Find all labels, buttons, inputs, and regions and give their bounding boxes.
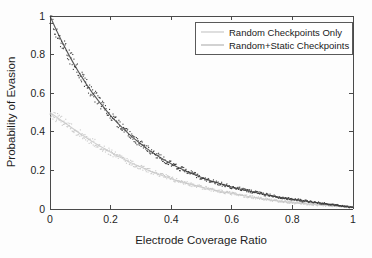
data-point — [349, 207, 350, 208]
data-point — [189, 172, 190, 173]
data-point — [235, 194, 236, 195]
x-tick-labels: 00.20.40.60.81 — [47, 213, 356, 225]
data-point — [166, 174, 167, 175]
data-point — [110, 116, 111, 117]
data-point — [86, 136, 87, 137]
data-point — [176, 180, 177, 181]
data-point — [137, 168, 138, 169]
data-point — [142, 142, 143, 143]
data-point — [216, 182, 217, 183]
data-point — [256, 197, 257, 198]
data-point — [286, 199, 287, 200]
data-point — [169, 176, 170, 177]
data-point — [108, 115, 109, 116]
data-point — [108, 154, 109, 155]
data-point — [286, 198, 287, 199]
data-point — [140, 168, 141, 169]
data-point — [79, 77, 80, 78]
data-point — [195, 175, 196, 176]
data-point — [168, 164, 169, 165]
data-point — [166, 163, 167, 164]
data-point — [56, 118, 57, 119]
data-point — [124, 159, 125, 160]
data-point — [121, 128, 122, 129]
data-point — [240, 195, 241, 196]
x-tick-label: 0 — [47, 213, 53, 225]
data-point — [111, 151, 112, 152]
data-point — [197, 185, 198, 186]
data-point — [160, 157, 161, 158]
data-point — [261, 197, 262, 198]
data-point — [52, 114, 53, 115]
data-point — [58, 116, 59, 117]
data-point — [232, 187, 233, 188]
data-point — [137, 138, 138, 139]
data-point — [54, 117, 55, 118]
data-point — [282, 198, 283, 199]
data-point — [181, 180, 182, 181]
data-point — [205, 179, 206, 180]
data-point — [95, 145, 96, 146]
data-point — [86, 85, 87, 86]
data-point — [135, 143, 136, 144]
data-point — [233, 186, 234, 187]
data-point — [106, 108, 107, 109]
data-point — [267, 194, 268, 195]
data-point — [149, 168, 150, 169]
data-point — [107, 149, 108, 150]
data-point — [292, 203, 293, 204]
data-point — [117, 122, 118, 123]
data-point — [158, 174, 159, 175]
data-point — [112, 152, 113, 153]
data-point — [73, 69, 74, 70]
data-point — [79, 133, 80, 134]
data-point — [51, 15, 52, 16]
y-tick-labels: 00.20.40.60.81 — [30, 10, 45, 215]
y-tick-label: 0.4 — [30, 125, 45, 137]
data-point — [76, 135, 77, 136]
data-point — [84, 134, 85, 135]
data-point — [242, 188, 243, 189]
data-point — [111, 120, 112, 121]
data-point — [251, 197, 252, 198]
data-point — [65, 43, 66, 44]
data-point — [93, 141, 94, 142]
data-point — [96, 147, 97, 148]
data-point — [265, 195, 266, 196]
data-point — [157, 157, 158, 158]
data-point — [87, 87, 88, 88]
data-point — [71, 52, 72, 53]
figure-container: 00.20.40.60.81 00.20.40.60.81 Electrode … — [0, 0, 372, 258]
data-point — [216, 181, 217, 182]
data-point — [129, 164, 130, 165]
data-point — [127, 129, 128, 130]
data-point — [128, 135, 129, 136]
x-tick-label: 0.4 — [164, 213, 179, 225]
data-point — [285, 197, 286, 198]
data-point — [167, 175, 168, 176]
data-point — [287, 199, 288, 200]
data-point — [258, 191, 259, 192]
legend[interactable]: Random Checkpoints Only Random+Static Ch… — [196, 23, 353, 55]
data-point — [126, 163, 127, 164]
data-point — [123, 127, 124, 128]
data-point — [156, 157, 157, 158]
data-point — [49, 23, 50, 24]
data-point — [185, 169, 186, 170]
data-point — [82, 133, 83, 134]
data-point — [309, 204, 310, 205]
data-point — [246, 194, 247, 195]
data-point — [88, 93, 89, 94]
data-point — [173, 163, 174, 164]
data-point — [322, 203, 323, 204]
data-point — [92, 89, 93, 90]
data-point — [80, 129, 81, 130]
data-point — [199, 175, 200, 176]
data-point — [184, 181, 185, 182]
data-point — [87, 138, 88, 139]
data-point — [263, 193, 264, 194]
data-point — [75, 67, 76, 68]
data-point — [278, 198, 279, 199]
data-point — [75, 130, 76, 131]
data-point — [279, 196, 280, 197]
